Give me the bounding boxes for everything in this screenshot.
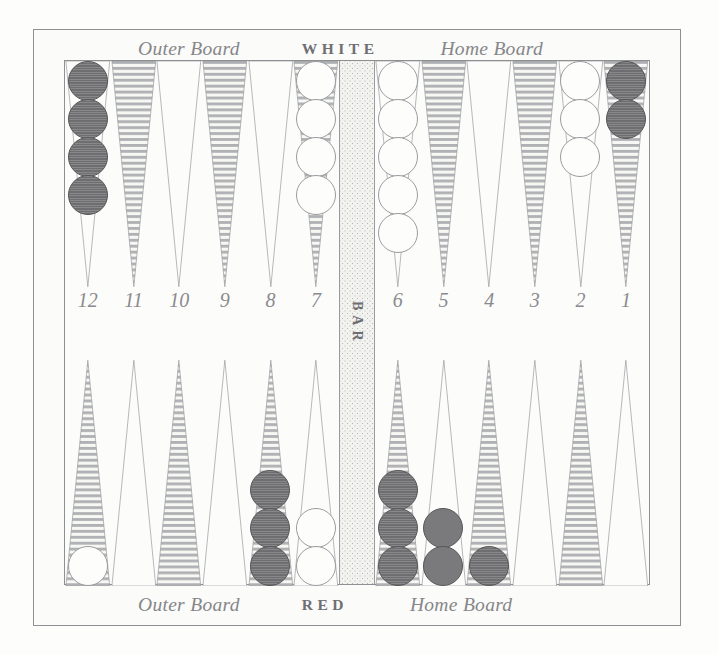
checker-white[interactable] bbox=[296, 99, 336, 139]
checker-red[interactable] bbox=[250, 546, 290, 586]
point-triangle bbox=[202, 358, 248, 586]
point-number-7: 7 bbox=[293, 289, 339, 358]
point-5[interactable] bbox=[421, 358, 467, 586]
checker-red[interactable] bbox=[378, 508, 418, 548]
checker-white[interactable] bbox=[296, 137, 336, 177]
checker-stack bbox=[603, 62, 649, 138]
checker-white[interactable] bbox=[378, 175, 418, 215]
checker-red[interactable] bbox=[250, 508, 290, 548]
point-triangle bbox=[248, 61, 294, 289]
bar-strip[interactable]: BAR bbox=[339, 61, 375, 584]
checker-stack bbox=[65, 547, 111, 585]
top-outer-quadrant bbox=[65, 61, 339, 289]
point-number-1: 1 bbox=[603, 289, 649, 358]
point-6[interactable] bbox=[375, 358, 421, 586]
point-9[interactable] bbox=[202, 61, 248, 289]
bottom-caption-row: Outer Board RED Home Board bbox=[33, 588, 681, 622]
point-3[interactable] bbox=[512, 61, 558, 289]
checker-stack bbox=[65, 62, 111, 214]
point-number-5: 5 bbox=[421, 289, 467, 358]
checker-white[interactable] bbox=[296, 175, 336, 215]
point-numbers-left: 121110987 bbox=[65, 289, 339, 358]
point-triangle bbox=[202, 61, 248, 289]
point-2[interactable] bbox=[558, 358, 604, 586]
point-number-10: 10 bbox=[156, 289, 202, 358]
checker-white[interactable] bbox=[560, 137, 600, 177]
checker-white[interactable] bbox=[560, 99, 600, 139]
checker-white[interactable] bbox=[296, 61, 336, 101]
point-7[interactable] bbox=[293, 61, 339, 289]
point-number-4: 4 bbox=[466, 289, 512, 358]
point-7[interactable] bbox=[293, 358, 339, 586]
checker-stack bbox=[248, 471, 294, 585]
checker-red[interactable] bbox=[68, 61, 108, 101]
checker-white[interactable] bbox=[378, 99, 418, 139]
point-number-3: 3 bbox=[512, 289, 558, 358]
point-number-11: 11 bbox=[111, 289, 157, 358]
top-player-label: WHITE bbox=[302, 40, 379, 58]
checker-red[interactable] bbox=[606, 61, 646, 101]
checker-red[interactable] bbox=[423, 546, 463, 586]
point-number-2: 2 bbox=[558, 289, 604, 358]
point-9[interactable] bbox=[202, 358, 248, 586]
checker-red[interactable] bbox=[423, 508, 463, 548]
point-number-6: 6 bbox=[375, 289, 421, 358]
point-11[interactable] bbox=[111, 358, 157, 586]
checker-stack bbox=[293, 62, 339, 214]
point-triangle bbox=[156, 358, 202, 586]
checker-red[interactable] bbox=[378, 546, 418, 586]
checker-red[interactable] bbox=[68, 175, 108, 215]
point-6[interactable] bbox=[375, 61, 421, 289]
point-12[interactable] bbox=[65, 358, 111, 586]
checker-white[interactable] bbox=[296, 508, 336, 548]
checker-stack bbox=[558, 62, 604, 176]
point-2[interactable] bbox=[558, 61, 604, 289]
top-outer-board-label: Outer Board bbox=[138, 38, 240, 60]
point-1[interactable] bbox=[603, 358, 649, 586]
point-10[interactable] bbox=[156, 358, 202, 586]
point-triangle bbox=[156, 61, 202, 289]
point-triangle bbox=[111, 358, 157, 586]
point-triangle bbox=[466, 61, 512, 289]
checker-red[interactable] bbox=[378, 470, 418, 510]
point-5[interactable] bbox=[421, 61, 467, 289]
checker-white[interactable] bbox=[378, 213, 418, 253]
top-home-board-label: Home Board bbox=[440, 38, 542, 60]
point-triangle bbox=[421, 61, 467, 289]
point-triangle bbox=[558, 358, 604, 586]
checker-white[interactable] bbox=[296, 546, 336, 586]
bottom-home-board-label: Home Board bbox=[410, 594, 512, 616]
checker-white[interactable] bbox=[560, 61, 600, 101]
bar-label: BAR bbox=[349, 299, 365, 346]
point-12[interactable] bbox=[65, 61, 111, 289]
point-11[interactable] bbox=[111, 61, 157, 289]
point-number-8: 8 bbox=[248, 289, 294, 358]
point-triangle bbox=[111, 61, 157, 289]
point-number-12: 12 bbox=[65, 289, 111, 358]
checker-white[interactable] bbox=[378, 137, 418, 177]
point-8[interactable] bbox=[248, 61, 294, 289]
point-numbers-right: 654321 bbox=[375, 289, 649, 358]
checker-stack bbox=[421, 509, 467, 585]
bottom-outer-quadrant bbox=[65, 358, 339, 586]
bottom-home-quadrant bbox=[375, 358, 649, 586]
point-4[interactable] bbox=[466, 358, 512, 586]
checker-red[interactable] bbox=[250, 470, 290, 510]
checker-red[interactable] bbox=[68, 99, 108, 139]
point-8[interactable] bbox=[248, 358, 294, 586]
backgammon-screenshot: Outer Board WHITE Home Board 121110987 6… bbox=[0, 0, 718, 655]
checker-red[interactable] bbox=[469, 546, 509, 586]
checker-stack bbox=[375, 471, 421, 585]
checker-white[interactable] bbox=[68, 546, 108, 586]
checker-red[interactable] bbox=[606, 99, 646, 139]
point-3[interactable] bbox=[512, 358, 558, 586]
point-4[interactable] bbox=[466, 61, 512, 289]
point-1[interactable] bbox=[603, 61, 649, 289]
checker-white[interactable] bbox=[378, 61, 418, 101]
checker-red[interactable] bbox=[68, 137, 108, 177]
playing-surface: 121110987 654321 BAR bbox=[64, 60, 650, 585]
point-10[interactable] bbox=[156, 61, 202, 289]
bottom-player-label: RED bbox=[302, 596, 348, 614]
bottom-outer-board-label: Outer Board bbox=[138, 594, 240, 616]
checker-stack bbox=[375, 62, 421, 252]
